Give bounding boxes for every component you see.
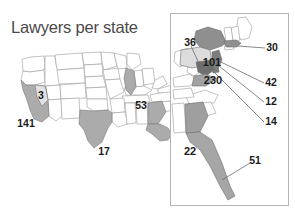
state-iowa [103, 68, 120, 80]
state-michigan [127, 53, 141, 70]
label-illinois: 53 [135, 99, 147, 111]
us-choropleth-map: 141 3 17 53 36 101 30 230 42 12 14 22 51 [0, 0, 295, 218]
state-utah [46, 85, 61, 100]
state-south-dakota [84, 64, 103, 77]
state-colorado [60, 83, 86, 99]
state-georgia-shaded [148, 101, 166, 124]
label-nevada: 3 [38, 89, 44, 101]
state-oregon [21, 70, 45, 85]
label-pennsylvania: 36 [184, 36, 196, 48]
label-delaware: 12 [265, 95, 277, 107]
state-missouri [105, 79, 124, 99]
state-oklahoma [87, 99, 108, 111]
figure-canvas: Lawyers per state [0, 0, 295, 218]
state-louisiana [112, 112, 128, 127]
state-ohio [142, 68, 155, 85]
state-montana [55, 53, 84, 70]
state-new-mexico [61, 98, 80, 119]
label-georgia: 22 [184, 145, 196, 157]
state-washington [22, 56, 45, 72]
state-arizona [48, 99, 62, 121]
state-north-dakota [82, 52, 102, 65]
label-maryland: 230 [204, 74, 222, 86]
inset-state-alabama-inset [172, 103, 186, 133]
state-wyoming [57, 68, 85, 84]
state-kansas [86, 87, 107, 99]
state-nebraska [85, 76, 106, 88]
label-new-jersey: 42 [265, 76, 277, 88]
state-arkansas [110, 98, 125, 113]
label-virginia: 14 [265, 115, 277, 127]
inset-state-tennessee-inset [173, 88, 194, 99]
label-florida: 51 [249, 154, 261, 166]
label-massachusetts: 30 [266, 41, 278, 53]
label-california: 141 [17, 117, 35, 129]
state-texas-shaded [79, 110, 112, 148]
state-florida-shaded [146, 124, 172, 141]
label-texas: 17 [98, 145, 110, 157]
label-new-york: 101 [203, 56, 221, 68]
